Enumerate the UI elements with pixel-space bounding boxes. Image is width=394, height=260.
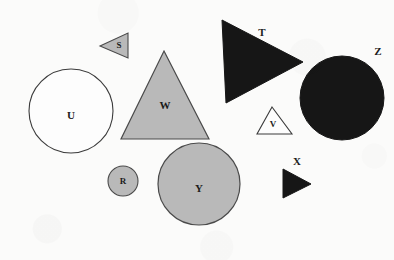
shape-w[interactable]: W xyxy=(121,51,209,139)
shape-label-s: S xyxy=(116,40,121,50)
shape-v[interactable]: V xyxy=(257,107,292,134)
shape-label-r: R xyxy=(120,176,127,186)
circle-z xyxy=(300,56,384,140)
shape-y[interactable]: Y xyxy=(158,143,240,225)
triangle-x xyxy=(283,169,311,198)
shape-label-t: T xyxy=(258,26,266,38)
shape-label-v: V xyxy=(270,119,277,129)
shape-x[interactable]: X xyxy=(283,155,311,198)
triangle-w xyxy=(121,51,209,139)
shape-z[interactable]: Z xyxy=(300,45,384,140)
shape-u[interactable]: U xyxy=(29,69,113,153)
shape-label-w: W xyxy=(160,99,171,111)
shape-label-z: Z xyxy=(374,45,381,57)
shape-label-y: Y xyxy=(195,182,203,194)
shape-label-u: U xyxy=(67,109,75,121)
shape-diagram-canvas: U S W T Z V R xyxy=(0,0,394,260)
shape-label-x: X xyxy=(293,155,301,167)
shape-r[interactable]: R xyxy=(108,166,138,196)
shape-s[interactable]: S xyxy=(100,33,128,58)
shapes-svg: U S W T Z V R xyxy=(0,0,394,260)
shape-t[interactable]: T xyxy=(222,20,303,103)
triangle-s xyxy=(100,33,128,58)
